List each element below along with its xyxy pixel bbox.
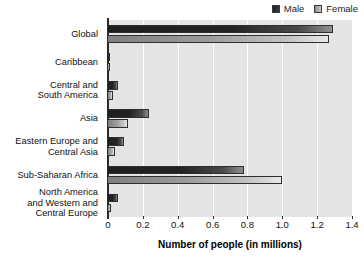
bar-row: Caribbean <box>0 48 364 76</box>
bar-male <box>108 109 149 118</box>
bar-female <box>108 91 113 100</box>
x-tick-label: 1.2 <box>311 219 324 230</box>
bar-group <box>108 25 333 44</box>
bar-male <box>108 25 333 34</box>
legend-swatch-male-icon <box>272 5 280 13</box>
bar-group <box>108 53 110 72</box>
category-label: Sub-Saharan Africa <box>0 170 98 180</box>
bar-group <box>108 166 282 185</box>
x-tick-label: 0.4 <box>171 219 184 230</box>
category-label: Caribbean <box>0 57 98 67</box>
legend-item-female: Female <box>314 4 358 14</box>
chart-legend: Male Female <box>272 2 358 16</box>
legend-label-female: Female <box>326 4 358 14</box>
bar-chart: Male Female GlobalCaribbeanCentral and S… <box>0 0 364 265</box>
bar-group <box>108 194 118 213</box>
bar-group <box>108 109 149 128</box>
bar-female <box>108 204 111 213</box>
bar-group <box>108 81 118 100</box>
bar-rows: GlobalCaribbeanCentral and South America… <box>0 20 364 217</box>
bar-male <box>108 81 118 90</box>
bar-row: Global <box>0 20 364 48</box>
bar-female <box>108 63 110 72</box>
x-tick-label: 0.8 <box>241 219 254 230</box>
bar-row: Central and South America <box>0 76 364 104</box>
bar-female <box>108 35 329 44</box>
x-tick-label: 0 <box>105 219 110 230</box>
bar-female <box>108 119 128 128</box>
x-tick-label: 0.6 <box>206 219 219 230</box>
bar-female <box>108 147 115 156</box>
bar-male <box>108 194 118 203</box>
category-label: Asia <box>0 113 98 123</box>
bar-group <box>108 137 124 156</box>
bar-male <box>108 53 110 62</box>
bar-row: Eastern Europe and Central Asia <box>0 133 364 161</box>
category-label: Central and South America <box>0 80 98 101</box>
x-axis-label: Number of people (in millions) <box>108 239 352 250</box>
x-tick-label: 0.2 <box>136 219 149 230</box>
x-axis-ticks: 00.20.40.60.81.01.21.4 <box>0 219 364 233</box>
x-tick-label: 1.4 <box>345 219 358 230</box>
category-label: Global <box>0 29 98 39</box>
x-tick-label: 1.0 <box>276 219 289 230</box>
category-label: North America and Western and Central Eu… <box>0 187 98 218</box>
bar-row: Sub-Saharan Africa <box>0 161 364 189</box>
bar-male <box>108 166 244 175</box>
category-label: Eastern Europe and Central Asia <box>0 136 98 157</box>
bar-male <box>108 137 124 146</box>
legend-label-male: Male <box>284 4 305 14</box>
legend-swatch-female-icon <box>314 5 322 13</box>
bar-row: Asia <box>0 104 364 132</box>
bar-female <box>108 176 282 185</box>
legend-item-male: Male <box>272 4 305 14</box>
bar-row: North America and Western and Central Eu… <box>0 189 364 217</box>
